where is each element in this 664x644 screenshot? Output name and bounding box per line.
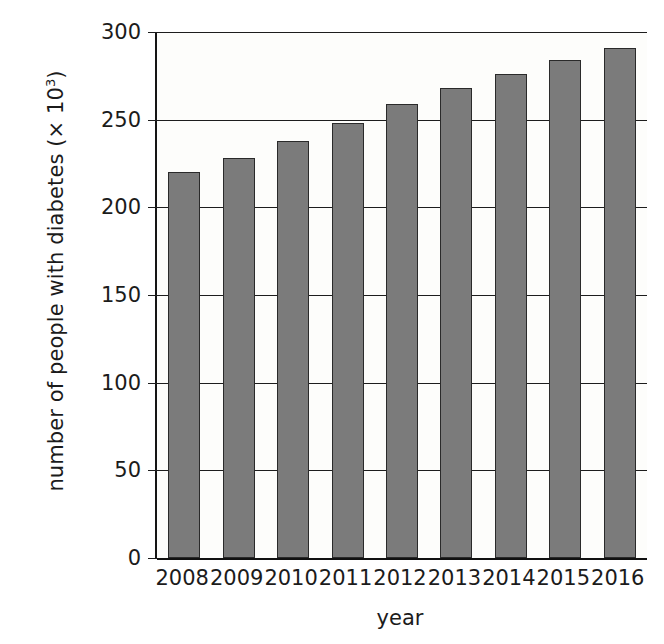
x-tick-label-2008: 2008 <box>152 566 212 590</box>
x-axis-title: year <box>155 606 645 630</box>
y-axis-tick-labels: 050100150200250300 <box>79 32 141 558</box>
y-tick-label-200: 200 <box>79 195 141 219</box>
x-axis-tick-labels: 200820092010201120122013201420152016 <box>155 566 645 596</box>
bar-2013[interactable] <box>440 88 472 558</box>
bar-2011[interactable] <box>332 123 364 558</box>
x-tick-label-2015: 2015 <box>533 566 593 590</box>
y-tick-mark-200 <box>148 207 157 208</box>
gridline-0 <box>157 558 647 560</box>
x-tick-label-2009: 2009 <box>207 566 267 590</box>
y-axis-title: number of people with diabetes (× 103) <box>39 1 73 561</box>
bar-2010[interactable] <box>277 141 309 558</box>
x-tick-label-2013: 2013 <box>424 566 484 590</box>
y-tick-label-100: 100 <box>79 371 141 395</box>
y-tick-mark-0 <box>148 558 157 559</box>
y-tick-label-150: 150 <box>79 283 141 307</box>
bar-2016[interactable] <box>604 48 636 558</box>
x-tick-label-2016: 2016 <box>588 566 648 590</box>
bar-2014[interactable] <box>495 74 527 558</box>
y-axis-title-suffix: ) <box>44 70 68 78</box>
y-tick-mark-150 <box>148 295 157 296</box>
y-axis-title-text: number of people with diabetes (× 10 <box>44 87 68 491</box>
y-tick-mark-300 <box>148 32 157 33</box>
bar-2015[interactable] <box>549 60 581 558</box>
y-tick-label-0: 0 <box>79 546 141 570</box>
y-tick-mark-100 <box>148 383 157 384</box>
y-tick-mark-50 <box>148 470 157 471</box>
plot-area <box>155 32 647 558</box>
y-tick-label-300: 300 <box>79 20 141 44</box>
x-tick-label-2010: 2010 <box>261 566 321 590</box>
y-tick-mark-250 <box>148 120 157 121</box>
bar-2009[interactable] <box>223 158 255 558</box>
x-tick-label-2011: 2011 <box>316 566 376 590</box>
x-tick-label-2014: 2014 <box>479 566 539 590</box>
bar-series <box>157 32 647 558</box>
bar-2012[interactable] <box>386 104 418 558</box>
y-tick-label-250: 250 <box>79 108 141 132</box>
x-tick-label-2012: 2012 <box>370 566 430 590</box>
bar-2008[interactable] <box>168 172 200 558</box>
bar-chart-figure: number of people with diabetes (× 103) 0… <box>0 0 664 644</box>
y-axis-title-exponent: 3 <box>43 79 58 87</box>
y-tick-label-50: 50 <box>79 458 141 482</box>
